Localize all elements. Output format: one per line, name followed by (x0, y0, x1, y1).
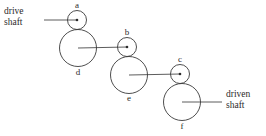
drive-shaft-label-line1: drive (4, 6, 24, 16)
driven-shaft-label-line2: shaft (226, 100, 245, 110)
gear-label-e: e (127, 93, 131, 103)
shaft-line-e-to-c (129, 74, 180, 75)
hub-dot-b (126, 46, 129, 49)
gear-label-a: a (75, 0, 79, 10)
gear-label-d: d (76, 67, 81, 77)
gear-train-diagram: a d b e c f drive shaft driven shaft (0, 0, 266, 136)
gear-label-c: c (178, 54, 182, 64)
driven-shaft-label-line1: driven (226, 89, 251, 99)
gear-label-b: b (125, 27, 130, 37)
shaft-line-d-to-b (78, 47, 127, 48)
hub-dot-a (76, 19, 79, 22)
gear-label-f: f (181, 121, 184, 131)
drive-shaft-label-line2: shaft (4, 17, 23, 27)
hub-dot-c (179, 73, 182, 76)
gear-train-figure: a d b e c f drive shaft driven shaft (0, 0, 266, 136)
